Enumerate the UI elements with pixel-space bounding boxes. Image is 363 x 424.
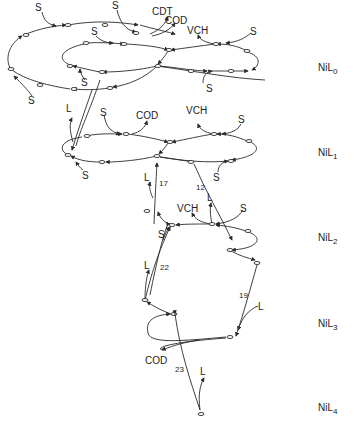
label-s: S: [91, 26, 98, 37]
nil0-cycle: [8, 10, 265, 96]
level-base: NiL: [318, 147, 333, 158]
edge-number-23: 23: [175, 365, 184, 374]
label-vch: VCH: [177, 203, 198, 214]
label-l: L: [144, 260, 150, 271]
label-s: S: [206, 83, 213, 94]
nil4-node: [198, 413, 204, 416]
level-label-nil0: NiL0: [318, 62, 337, 76]
level-sub: 0: [333, 67, 337, 76]
label-s: S: [81, 77, 88, 88]
label-cod: COD: [165, 15, 187, 26]
label-cod: COD: [145, 355, 167, 366]
label-l: L: [258, 301, 264, 312]
level-label-nil3: NiL3: [318, 318, 337, 332]
level-label-nil2: NiL2: [318, 232, 337, 246]
level-base: NiL: [318, 232, 333, 243]
label-s: S: [213, 172, 220, 183]
edge-number-22: 22: [160, 263, 169, 272]
label-s: S: [28, 95, 35, 106]
level-sub: 3: [333, 323, 337, 332]
level-sub: 4: [333, 407, 337, 416]
level-label-nil4: NiL4: [318, 402, 337, 416]
level-base: NiL: [318, 62, 333, 73]
level-base: NiL: [318, 318, 333, 329]
label-cod: COD: [136, 110, 158, 121]
label-l: L: [144, 172, 150, 183]
label-s: S: [238, 114, 245, 125]
label-l: L: [200, 366, 206, 377]
reaction-network-diagram: S S CDT COD S VCH S S S S L: [0, 0, 363, 424]
nil1-cycle: [62, 115, 256, 172]
edge-number-19: 19: [239, 291, 248, 300]
level-sub: 2: [333, 237, 337, 246]
label-s: S: [158, 229, 165, 240]
level-label-nil1: NiL1: [318, 147, 337, 161]
label-s: S: [112, 0, 119, 11]
label-l: L: [66, 103, 72, 114]
label-s: S: [82, 170, 89, 181]
edge-number-17: 17: [159, 179, 168, 188]
label-s: S: [250, 26, 257, 37]
level-base: NiL: [318, 402, 333, 413]
label-s: S: [35, 2, 42, 13]
label-vch: VCH: [187, 25, 208, 36]
edge-number-12: 12: [196, 183, 205, 192]
label-vch: VCH: [186, 105, 207, 116]
label-s: S: [240, 203, 247, 214]
label-s: S: [100, 107, 107, 118]
level-sub: 1: [333, 152, 337, 161]
label-l: L: [207, 192, 213, 203]
